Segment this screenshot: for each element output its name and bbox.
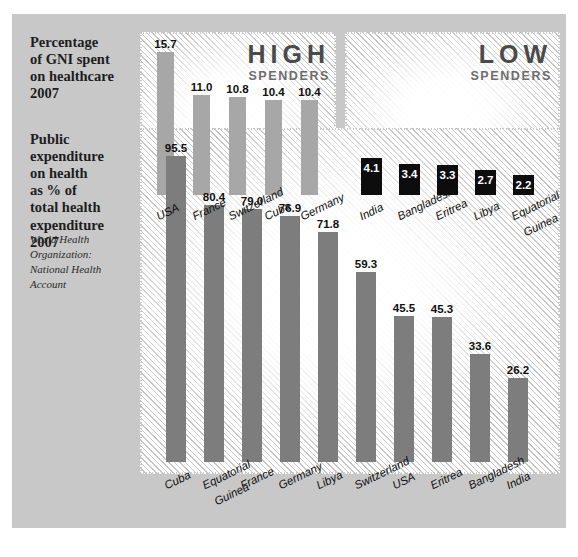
bar-value-label: 10.8 xyxy=(223,83,252,95)
high-spenders-title: HIGH xyxy=(248,42,331,67)
bar-value-label: 33.6 xyxy=(464,340,496,352)
bar xyxy=(280,216,300,462)
low-spenders-title: LOW xyxy=(470,42,552,67)
bar-value-label: 11.0 xyxy=(187,81,216,93)
bottom-caption-line: on health xyxy=(30,165,150,182)
attribution-line: National Health xyxy=(30,262,148,277)
bar-value-label: 45.3 xyxy=(426,303,458,315)
low-spenders-heading: LOW SPENDERS xyxy=(470,42,552,83)
attribution-line: Organization: xyxy=(30,247,148,262)
bottom-caption-line: total health xyxy=(30,199,150,216)
top-caption-line: on healthcare xyxy=(30,68,150,85)
top-chart-caption: Percentage of GNI spent on healthcare 20… xyxy=(30,34,150,102)
high-spenders-subtitle: SPENDERS xyxy=(248,70,331,83)
bottom-caption-line: Public xyxy=(30,131,150,148)
bar-value-label: 10.4 xyxy=(295,86,324,98)
bottom-caption-line: as % of xyxy=(30,182,150,199)
bar xyxy=(204,205,224,462)
bar xyxy=(318,232,338,462)
bar-value-label: 26.2 xyxy=(502,364,534,376)
bar-value-label: 10.4 xyxy=(259,86,288,98)
bar xyxy=(470,354,490,462)
infographic-page: Percentage of GNI spent on healthcare 20… xyxy=(12,14,566,528)
bar-value-label: 59.3 xyxy=(350,258,382,270)
top-caption-line: 2007 xyxy=(30,85,150,102)
attribution-line: Account xyxy=(30,277,148,292)
top-caption-line: of GNI spent xyxy=(30,51,150,68)
source-attribution: World Health Organization: National Heal… xyxy=(30,232,148,291)
bar-value-label: 45.5 xyxy=(388,302,420,314)
bar xyxy=(356,272,376,462)
public-expenditure-panel: 95.580.479.076.971.859.345.545.333.626.2 xyxy=(140,128,560,474)
attribution-line: World Health xyxy=(30,232,148,247)
bar-value-label: 71.8 xyxy=(312,218,344,230)
bar xyxy=(432,317,452,462)
bar-value-label: 95.5 xyxy=(160,142,192,154)
public-expenditure-plot: 95.580.479.076.971.859.345.545.333.626.2 xyxy=(140,128,560,474)
bar-value-label: 15.7 xyxy=(151,38,180,50)
bar xyxy=(394,316,414,462)
high-spenders-heading: HIGH SPENDERS xyxy=(248,42,331,83)
top-caption-line: Percentage xyxy=(30,34,150,51)
bar xyxy=(242,209,262,462)
bottom-caption-line: expenditure xyxy=(30,148,150,165)
low-spenders-subtitle: SPENDERS xyxy=(470,70,552,83)
bar xyxy=(508,378,528,462)
